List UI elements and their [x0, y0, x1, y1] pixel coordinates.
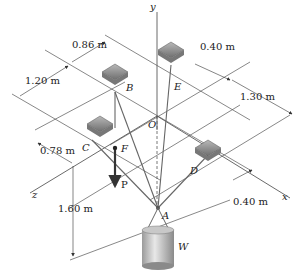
diagram-lines	[0, 0, 304, 276]
dim-1.30: 1.30 m	[240, 92, 275, 102]
dim-1.20: 1.20 m	[25, 76, 60, 86]
dim-0.40-right: 0.40 m	[233, 197, 268, 207]
dim-0.40-top: 0.40 m	[200, 42, 235, 52]
statics-diagram: 0.86 m 1.20 m 0.40 m 1.30 m 0.78 m 1.60 …	[0, 0, 304, 276]
point-label-C: C	[82, 143, 90, 153]
point-label-F: F	[121, 144, 128, 154]
dim-0.78: 0.78 m	[40, 146, 75, 156]
point-label-A: A	[162, 211, 169, 221]
weight-W	[142, 226, 174, 270]
axis-label-z: z	[32, 190, 37, 200]
point-label-B: B	[126, 83, 133, 93]
load-label-W: W	[178, 242, 188, 252]
axes	[30, 12, 290, 198]
point-F	[113, 146, 117, 150]
point-label-D: D	[190, 166, 198, 176]
axis-label-x: x	[282, 192, 288, 202]
dim-1.60: 1.60 m	[58, 204, 93, 214]
dim-0.86: 0.86 m	[72, 40, 107, 50]
load-label-P: P	[121, 180, 128, 190]
axis-label-y: y	[150, 2, 156, 12]
point-label-E: E	[174, 82, 181, 92]
origin-label-O: O	[148, 120, 156, 130]
